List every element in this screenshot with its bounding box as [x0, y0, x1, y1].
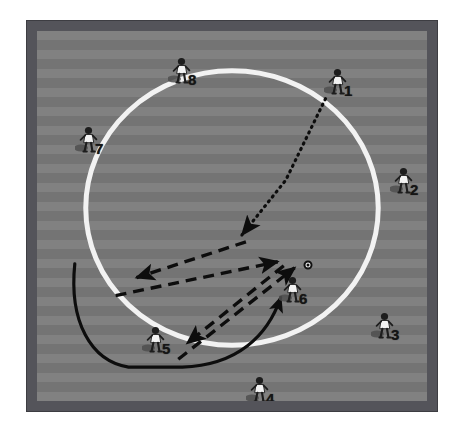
run-line-left-to-right [116, 262, 278, 296]
player-number-label-4: 4 [266, 391, 274, 401]
player-number-label-5: 5 [162, 341, 170, 356]
player-number-label-2: 2 [410, 182, 418, 197]
run-line-right-to-player-5 [187, 266, 284, 344]
player-token-3[interactable]: 3 [371, 311, 397, 341]
player-number-label-8: 8 [188, 72, 196, 87]
player-number-label-1: 1 [344, 83, 352, 98]
player-token-5[interactable]: 5 [142, 325, 168, 355]
pitch-frame: 1 2 3 [26, 20, 438, 412]
pitch-surface: 1 2 3 [37, 31, 427, 401]
dribble-curve-path [74, 264, 281, 367]
run-line-player-5-to-ball [178, 268, 294, 360]
soccer-ball-icon [304, 261, 313, 270]
player-number-label-7: 7 [95, 141, 103, 156]
player-token-4[interactable]: 4 [246, 375, 272, 401]
player-token-6[interactable]: 6 [279, 275, 305, 305]
center-circle [86, 71, 379, 346]
player-token-8[interactable]: 8 [168, 56, 194, 86]
pitch-markings-and-paths [37, 31, 427, 401]
player-token-1[interactable]: 1 [324, 67, 350, 97]
player-number-label-6: 6 [299, 291, 307, 306]
player-token-7[interactable]: 7 [75, 125, 101, 155]
player-token-2[interactable]: 2 [390, 166, 416, 196]
diagram-canvas: 1 2 3 [0, 0, 464, 432]
player-number-label-3: 3 [391, 327, 399, 342]
pass-line-from-player-1 [242, 99, 326, 235]
run-line-center-to-left [136, 242, 245, 278]
